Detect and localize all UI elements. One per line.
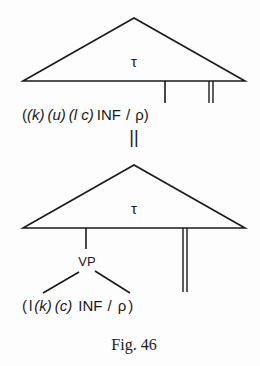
top-terminal-string: ((k)(u)(l c)INF/ρ) xyxy=(22,106,149,123)
vp-branch-left xyxy=(43,272,79,293)
vp-branch-right xyxy=(95,271,130,293)
tree-diagram: τ ((k)(u)(l c)INF/ρ) || τ VP (l(k)(c)INF… xyxy=(0,0,260,366)
bottom-tau-label: τ xyxy=(131,200,137,217)
top-triangle xyxy=(23,18,245,81)
bottom-triangle xyxy=(23,165,245,228)
top-tau-label: τ xyxy=(131,53,137,70)
vp-label: VP xyxy=(78,254,95,269)
bottom-terminal-string: (l(k)(c)INF/ρ) xyxy=(22,297,133,314)
top-tree: τ ((k)(u)(l c)INF/ρ) xyxy=(22,18,245,123)
equivalence-symbol: || xyxy=(129,127,138,147)
bottom-tree: τ VP (l(k)(c)INF/ρ) xyxy=(22,165,245,314)
figure-caption: Fig. 46 xyxy=(111,336,156,354)
